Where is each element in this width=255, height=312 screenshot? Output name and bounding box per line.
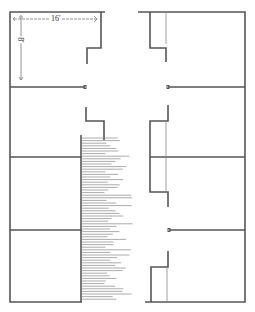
dimension-lines [13,16,97,80]
right-building-walls [138,12,245,302]
left-building-walls [10,12,105,302]
floor-plan [0,0,255,312]
width-dimension-label: 16' [50,15,61,23]
depth-dimension-label: 8' [16,36,24,43]
corridor-hatch [81,138,133,299]
